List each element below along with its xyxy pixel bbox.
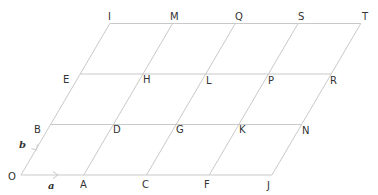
point-label-P: P [268, 75, 274, 86]
point-label-A: A [80, 179, 87, 190]
vector-b-label: b [19, 139, 26, 150]
point-label-T: T [361, 11, 369, 22]
col-line-0 [21, 24, 110, 176]
vector-a-label: a [48, 180, 54, 191]
col-line-3 [209, 24, 298, 176]
point-label-O: O [8, 171, 16, 182]
point-label-D: D [113, 124, 121, 135]
point-label-C: C [142, 179, 149, 190]
point-label-J: J [266, 180, 270, 191]
grid-lines [21, 24, 361, 176]
point-label-Q: Q [235, 11, 243, 22]
vector-b-arrow-icon [32, 145, 38, 151]
col-line-4 [272, 24, 361, 176]
point-label-M: M [170, 11, 179, 22]
point-label-I: I [108, 11, 111, 22]
point-label-K: K [239, 124, 246, 135]
point-label-B: B [34, 124, 41, 135]
point-label-R: R [330, 75, 337, 86]
col-line-1 [84, 24, 173, 176]
parallelogram-grid-diagram: a b O A C F J B D G K N E H L P R I M Q … [0, 0, 378, 195]
point-label-N: N [302, 125, 309, 136]
point-label-L: L [206, 75, 212, 86]
point-label-E: E [63, 74, 69, 85]
point-label-S: S [298, 11, 304, 22]
point-label-G: G [176, 124, 184, 135]
col-line-2 [147, 24, 236, 176]
point-label-H: H [143, 74, 151, 85]
point-label-F: F [204, 179, 210, 190]
